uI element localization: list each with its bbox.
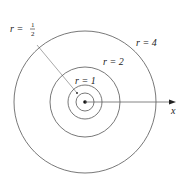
label-r1: r = 1 xyxy=(75,75,96,86)
label-r-half-denominator: 2 xyxy=(31,30,35,38)
concentric-circles-diagram: r = 1 2 r = 1 r = 2 r = 4 x xyxy=(0,0,192,187)
r-half-pointer-line xyxy=(37,45,77,93)
x-axis-arrow-icon xyxy=(169,100,176,105)
label-r-half-prefix: r = xyxy=(10,23,23,34)
r-half-pointer-dot xyxy=(76,92,78,94)
label-x-axis: x xyxy=(170,105,176,116)
diagram-canvas: r = 1 2 r = 1 r = 2 r = 4 x xyxy=(0,0,192,187)
label-r2: r = 2 xyxy=(103,56,124,67)
label-r-half-numerator: 1 xyxy=(31,21,35,29)
label-r4: r = 4 xyxy=(136,37,157,48)
